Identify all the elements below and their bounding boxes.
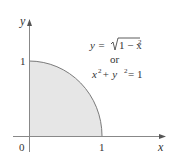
origin-label: 0 bbox=[19, 141, 25, 153]
x-axis-arrow-icon bbox=[159, 134, 166, 139]
svg-text:= 1: = 1 bbox=[128, 68, 142, 80]
svg-text:y =: y = bbox=[89, 39, 105, 51]
equation-or: or bbox=[110, 53, 120, 65]
svg-text:x: x bbox=[91, 68, 97, 80]
svg-text:+ y: + y bbox=[102, 68, 117, 80]
equation-circle-form: x 2 + y 2 = 1 bbox=[91, 67, 142, 80]
quarter-circle-figure: y x 0 1 1 y = 1 − x 2 or x 2 + y 2 = 1 bbox=[0, 0, 175, 164]
y-tick-label: 1 bbox=[20, 55, 26, 67]
y-axis-label: y bbox=[19, 14, 26, 28]
svg-text:2: 2 bbox=[138, 38, 142, 46]
x-tick-label: 1 bbox=[99, 141, 105, 153]
equation-sqrt-form: y = 1 − x 2 bbox=[89, 38, 142, 51]
y-axis-arrow-icon bbox=[27, 19, 32, 26]
x-axis-label: x bbox=[157, 140, 164, 154]
plot-canvas: y x 0 1 1 y = 1 − x 2 or x 2 + y 2 = 1 bbox=[0, 0, 175, 164]
